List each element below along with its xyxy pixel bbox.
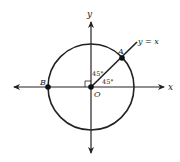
point-origin — [88, 84, 94, 90]
point-b-label: B — [39, 78, 46, 87]
point-a-label: A — [117, 47, 124, 56]
angle-label-lower: 45° — [102, 78, 114, 86]
unit-circle-diagram: y x O A B y = x 45° 45° — [0, 0, 180, 162]
point-a — [119, 55, 125, 61]
line-label: y = x — [137, 37, 159, 46]
origin-label: O — [94, 90, 101, 99]
line-y-equals-x — [91, 42, 137, 87]
y-axis-label: y — [86, 9, 93, 19]
point-b — [45, 84, 51, 90]
x-axis-label: x — [168, 82, 173, 92]
angle-label-upper: 45° — [92, 70, 104, 78]
